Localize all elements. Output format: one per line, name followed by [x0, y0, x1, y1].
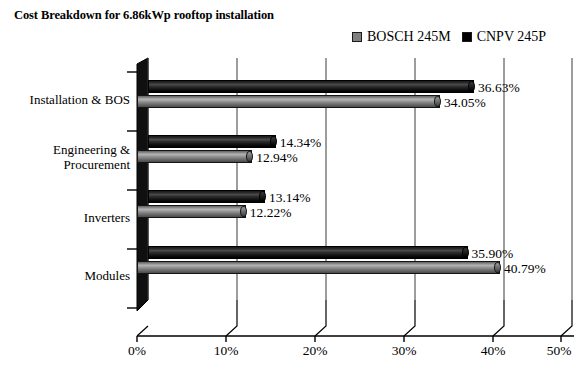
xtick-label-0: 0% [112, 343, 162, 359]
x-axis-tick-labels: 0% 10% 20% 30% 40% 50% [0, 0, 582, 378]
xtick-label-30: 30% [379, 343, 429, 359]
xtick-label-20: 20% [290, 343, 340, 359]
xtick-label-10: 10% [201, 343, 251, 359]
xtick-label-50: 50% [534, 343, 582, 359]
xtick-label-40: 40% [468, 343, 518, 359]
